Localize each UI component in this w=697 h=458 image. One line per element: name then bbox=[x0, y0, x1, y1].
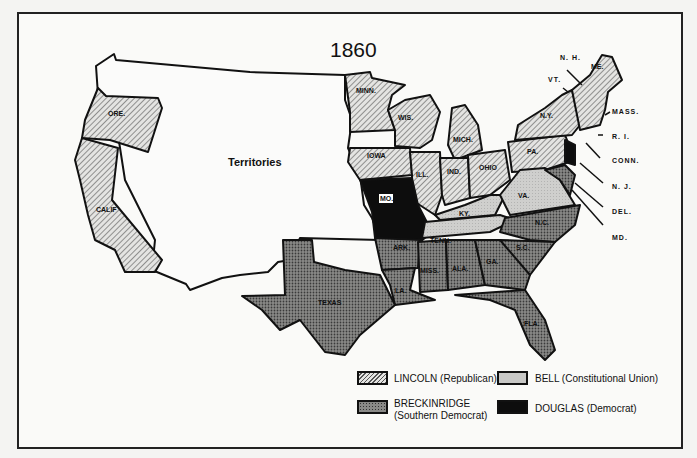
label-ala: ALA. bbox=[452, 265, 468, 272]
callout-del: DEL. bbox=[612, 208, 632, 215]
label-me: ME. bbox=[591, 63, 604, 70]
label-ohio: OHIO bbox=[479, 164, 497, 171]
label-mich: MICH. bbox=[453, 136, 473, 143]
label-pa: PA. bbox=[527, 148, 538, 155]
label-ill: ILL. bbox=[416, 171, 428, 178]
legend-swatch-douglas bbox=[497, 400, 528, 414]
map-title: 1860 bbox=[330, 38, 377, 62]
legend-label-lincoln: LINCOLN (Republican) bbox=[394, 373, 497, 384]
state-mich bbox=[448, 105, 482, 160]
label-va: VA. bbox=[518, 192, 529, 199]
legend-sublabel-breckinridge: (Southern Democrat) bbox=[394, 410, 487, 421]
label-tenn: TENN. bbox=[430, 237, 451, 244]
callout-ri: R. I. bbox=[612, 133, 630, 140]
legend-label-breckinridge: BRECKINRIDGE bbox=[394, 398, 470, 409]
callout-conn: CONN. bbox=[612, 157, 640, 164]
state-wis bbox=[388, 95, 440, 148]
label-ark: ARK. bbox=[393, 244, 410, 251]
label-fla: FLA. bbox=[524, 320, 540, 327]
legend-label-douglas: DOUGLAS (Democrat) bbox=[535, 403, 637, 414]
state-nj bbox=[565, 140, 575, 165]
election-map: ORE. CALIF MINN. WIS. MICH. IOWA ILL. IN… bbox=[0, 0, 697, 458]
callout-mass: MASS. bbox=[612, 108, 639, 115]
label-la: LA. bbox=[395, 287, 406, 294]
legend-swatch-bell bbox=[497, 371, 528, 385]
state-miss bbox=[418, 240, 448, 292]
territories-label: Territories bbox=[228, 156, 282, 168]
label-ny: N.Y. bbox=[540, 112, 553, 119]
legend-swatch-lincoln bbox=[357, 371, 388, 385]
label-texas: TEXAS bbox=[318, 299, 342, 306]
label-nc: N.C. bbox=[535, 219, 549, 226]
legend-swatch-breckinridge bbox=[357, 400, 388, 414]
state-fla bbox=[455, 290, 555, 360]
label-mo: MO. bbox=[380, 195, 393, 202]
label-iowa: IOWA bbox=[367, 152, 386, 159]
state-ark bbox=[375, 238, 420, 270]
label-sc: S.C. bbox=[516, 244, 530, 251]
label-ky: KY. bbox=[459, 210, 470, 217]
label-miss: MISS. bbox=[420, 267, 439, 274]
label-minn: MINN. bbox=[356, 87, 376, 94]
label-wis: WIS. bbox=[398, 114, 413, 121]
label-ore: ORE. bbox=[108, 110, 125, 117]
label-ind: IND. bbox=[447, 168, 461, 175]
callout-nj: N. J. bbox=[612, 183, 632, 190]
label-calif: CALIF bbox=[96, 206, 117, 213]
label-ga: GA. bbox=[486, 258, 499, 265]
state-ind bbox=[440, 158, 470, 205]
callout-nh: N. H. bbox=[560, 54, 581, 61]
callout-vt: VT. bbox=[548, 76, 561, 83]
callout-md: MD. bbox=[612, 234, 628, 241]
legend-label-bell: BELL (Constitutional Union) bbox=[535, 373, 658, 384]
